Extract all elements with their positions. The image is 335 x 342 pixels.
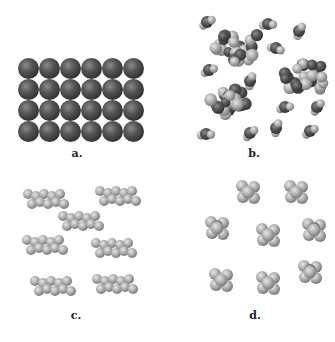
atom-sphere (230, 57, 240, 67)
atom-sphere (60, 121, 81, 142)
atom-sphere (274, 119, 282, 127)
atom-sphere (94, 221, 104, 231)
figure-canvas (0, 0, 335, 342)
atom-sphere (81, 79, 102, 100)
panel-c-chain-molecules (22, 186, 141, 296)
atom-sphere (242, 186, 255, 199)
atom-sphere (210, 42, 222, 54)
atom-sphere (231, 98, 244, 111)
atom-sphere (18, 79, 39, 100)
atom-sphere (262, 229, 275, 242)
molecular-models-figure: a. b. c. d. (0, 0, 335, 342)
atom-sphere (81, 121, 102, 142)
atom-sphere (276, 46, 284, 54)
atom-sphere (60, 100, 81, 121)
panel-label-c: c. (71, 310, 82, 321)
atom-sphere (228, 37, 239, 48)
atom-sphere (59, 199, 69, 209)
atom-sphere (291, 81, 302, 92)
atom-sphere (81, 58, 102, 79)
atom-sphere (127, 248, 137, 258)
atom-sphere (123, 100, 144, 121)
atom-sphere (290, 186, 303, 199)
atom-sphere (39, 100, 60, 121)
atom-sphere (292, 63, 302, 73)
atom-sphere (102, 100, 123, 121)
atom-sphere (262, 277, 275, 290)
panel-d-branched-molecules (205, 180, 326, 295)
panel-label-d: d. (249, 310, 261, 321)
atom-sphere (102, 121, 123, 142)
atom-sphere (39, 79, 60, 100)
atom-sphere (307, 60, 318, 71)
atom-sphere (81, 100, 102, 121)
atom-sphere (39, 58, 60, 79)
panel-a-atomic-grid (18, 58, 144, 142)
atom-sphere (18, 58, 39, 79)
atom-sphere (211, 222, 224, 235)
atom-sphere (246, 49, 259, 62)
atom-sphere (269, 20, 277, 28)
atom-sphere (286, 102, 294, 110)
atom-sphere (204, 93, 217, 106)
atom-sphere (218, 31, 228, 41)
atom-sphere (207, 130, 215, 138)
atom-sphere (316, 71, 327, 82)
atom-sphere (304, 266, 317, 279)
atom-sphere (280, 73, 290, 83)
atom-sphere (123, 58, 144, 79)
atom-sphere (298, 23, 306, 31)
panel-label-a: a. (72, 148, 83, 159)
atom-sphere (123, 121, 144, 142)
atom-sphere (131, 196, 141, 206)
panel-b-molecule-clusters (197, 16, 328, 142)
atom-sphere (123, 79, 144, 100)
atom-sphere (248, 72, 256, 80)
atom-sphere (18, 121, 39, 142)
atom-sphere (39, 121, 60, 142)
atom-sphere (128, 284, 138, 294)
atom-sphere (60, 58, 81, 79)
atom-sphere (58, 245, 68, 255)
panel-label-b: b. (248, 148, 260, 159)
atom-sphere (225, 90, 236, 101)
atom-sphere (60, 79, 81, 100)
atom-sphere (310, 125, 318, 133)
atom-sphere (308, 224, 321, 237)
atom-sphere (215, 274, 228, 287)
atom-sphere (316, 99, 324, 107)
atom-sphere (18, 100, 39, 121)
atom-sphere (207, 16, 215, 24)
atom-sphere (251, 29, 263, 41)
atom-sphere (102, 79, 123, 100)
atom-sphere (102, 58, 123, 79)
atom-sphere (66, 286, 76, 296)
atom-sphere (210, 65, 218, 73)
atom-sphere (250, 126, 258, 134)
